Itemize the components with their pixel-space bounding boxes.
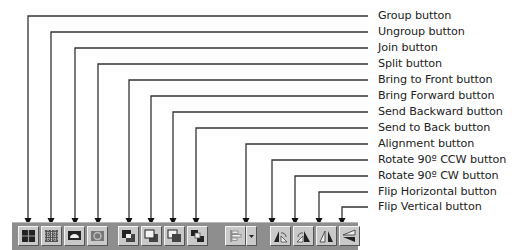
label-alignment: Alignment button xyxy=(378,137,474,151)
label-send-backward: Send Backward button xyxy=(378,105,503,119)
send-to-back-icon xyxy=(190,229,205,243)
alignment-dropdown-button[interactable] xyxy=(246,226,257,246)
leader-line xyxy=(151,96,368,219)
group-button[interactable] xyxy=(18,226,39,246)
label-flip-vertical: Flip Vertical button xyxy=(378,200,482,214)
leader-line xyxy=(75,48,368,219)
split-button[interactable] xyxy=(87,226,108,246)
label-rotate-ccw: Rotate 90º CCW button xyxy=(378,153,506,167)
leader-line xyxy=(295,176,368,219)
leader-line xyxy=(129,80,368,219)
label-group: Group button xyxy=(378,9,451,23)
split-icon xyxy=(90,229,105,243)
leader-line xyxy=(342,207,368,219)
label-flip-horizontal: Flip Horizontal button xyxy=(378,185,497,199)
leader-line xyxy=(28,16,368,219)
label-join: Join button xyxy=(378,41,438,55)
draw-toolbar xyxy=(12,222,358,250)
alignment-button[interactable] xyxy=(225,226,246,246)
label-send-to-back: Send to Back button xyxy=(378,121,490,135)
bring-to-front-icon xyxy=(121,229,136,243)
flip-horizontal-icon xyxy=(319,229,334,243)
leader-line xyxy=(246,144,368,219)
rotate-ccw-button[interactable] xyxy=(270,226,291,246)
flip-horizontal-button[interactable] xyxy=(316,226,337,246)
label-rotate-cw: Rotate 90º CW button xyxy=(378,169,499,183)
label-ungroup: Ungroup button xyxy=(378,25,465,39)
leader-line xyxy=(272,160,368,219)
bring-to-front-button[interactable] xyxy=(118,226,139,246)
bring-forward-icon xyxy=(144,229,159,243)
join-icon xyxy=(67,229,82,243)
rotate-cw-button[interactable] xyxy=(293,226,314,246)
rotate-cw-icon xyxy=(296,229,311,243)
alignment-icon xyxy=(228,229,243,243)
chevron-down-icon xyxy=(248,229,255,243)
label-split: Split button xyxy=(378,57,442,71)
send-backward-button[interactable] xyxy=(164,226,185,246)
label-bring-forward: Bring Forward button xyxy=(378,89,495,103)
flip-vertical-button[interactable] xyxy=(339,226,360,246)
group-icon xyxy=(21,229,36,243)
ungroup-button[interactable] xyxy=(41,226,62,246)
send-to-back-button[interactable] xyxy=(187,226,208,246)
leader-line xyxy=(319,192,368,219)
label-bring-to-front: Bring to Front button xyxy=(378,73,493,87)
flip-vertical-icon xyxy=(342,229,357,243)
send-backward-icon xyxy=(167,229,182,243)
bring-forward-button[interactable] xyxy=(141,226,162,246)
leader-line xyxy=(98,64,368,219)
join-button[interactable] xyxy=(64,226,85,246)
leader-line xyxy=(196,128,368,219)
rotate-ccw-icon xyxy=(273,229,288,243)
ungroup-icon xyxy=(44,229,59,243)
